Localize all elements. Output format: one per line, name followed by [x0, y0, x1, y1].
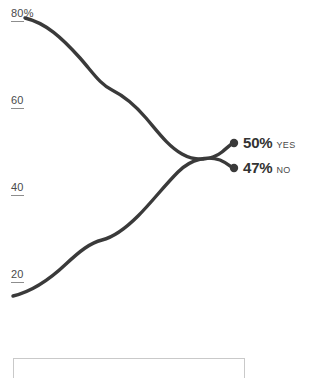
y-axis-tick-60-label: 60 — [11, 94, 24, 106]
y-axis-tick-40: 40 — [11, 181, 24, 196]
no-endpoint-dot — [230, 164, 238, 172]
series-line-yes — [25, 18, 233, 159]
yes-endpoint-dot — [230, 139, 238, 147]
bottom-panel-frame — [13, 358, 245, 378]
y-axis-tick-80-rule — [11, 21, 24, 22]
y-axis-tick-20: 20 — [11, 268, 24, 283]
series-callout-no-name: NO — [276, 162, 290, 179]
y-axis-tick-80-label: 80% — [11, 7, 34, 19]
series-callout-no-value: 47% — [243, 159, 272, 176]
y-axis-tick-20-label: 20 — [11, 268, 24, 280]
y-axis-tick-40-label: 40 — [11, 181, 24, 193]
y-axis-tick-60: 60 — [11, 94, 24, 109]
y-axis-tick-80: 80% — [11, 7, 34, 22]
series-callout-yes: 50% YES — [243, 134, 296, 154]
series-callout-yes-value: 50% — [243, 134, 272, 151]
series-callout-no: 47% NO — [243, 159, 291, 179]
y-axis-tick-60-rule — [11, 108, 24, 109]
y-axis-tick-40-rule — [11, 195, 24, 196]
series-callout-yes-name: YES — [276, 137, 295, 154]
y-axis-tick-20-rule — [11, 282, 24, 283]
series-line-no — [13, 158, 233, 296]
